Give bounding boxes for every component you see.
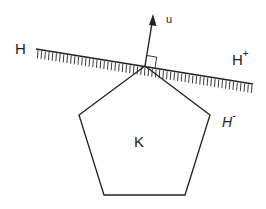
arrowhead-icon [149, 14, 157, 26]
hyperplane-hatching [37, 50, 252, 93]
label-convex-set-K: K [134, 134, 144, 149]
label-negative-halfspace-H: H [222, 114, 232, 130]
label-negative-halfspace: H- [222, 113, 235, 129]
label-hyperplane-H: H [15, 41, 26, 56]
supporting-hyperplane-diagram [0, 0, 266, 209]
label-positive-halfspace: H+ [232, 51, 249, 67]
right-angle-marker [147, 56, 157, 68]
label-normal-vector-u: u [166, 14, 172, 25]
label-negative-sup: - [232, 110, 235, 121]
convex-set-pentagon [79, 66, 210, 195]
label-positive-sup: + [243, 48, 249, 59]
label-positive-halfspace-H: H [232, 51, 243, 68]
